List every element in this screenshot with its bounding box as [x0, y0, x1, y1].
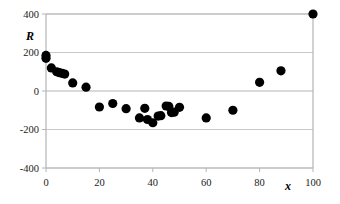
data-point	[68, 78, 77, 87]
data-point	[202, 113, 211, 122]
data-point	[95, 102, 104, 111]
chart-canvas: -400-2000200400 020406080100 R x	[0, 0, 340, 204]
x-tick-label: 80	[254, 177, 265, 188]
y-tick-label: -200	[20, 124, 39, 135]
data-point	[255, 78, 264, 87]
y-tick-label: 200	[23, 47, 39, 58]
data-point	[140, 104, 149, 113]
data-point	[41, 54, 50, 63]
x-tick-label: 0	[43, 177, 48, 188]
data-point	[81, 83, 90, 92]
y-axis-title: R	[25, 29, 34, 43]
scatter-chart: -400-2000200400 020406080100 R x	[0, 0, 340, 204]
x-tick-label: 20	[94, 177, 105, 188]
x-tick-label: 60	[201, 177, 212, 188]
y-tick-label: 400	[23, 9, 39, 20]
data-point	[308, 9, 317, 18]
x-tick-label: 100	[305, 177, 321, 188]
x-tick-label: 40	[148, 177, 159, 188]
data-point	[122, 104, 131, 113]
y-tick-label: 0	[34, 86, 39, 97]
data-point	[228, 106, 237, 115]
y-tick-label: -400	[20, 163, 39, 174]
data-point	[175, 103, 184, 112]
x-axis-title: x	[284, 179, 291, 193]
data-point	[108, 99, 117, 108]
data-point	[135, 113, 144, 122]
data-point	[276, 66, 285, 75]
data-point	[156, 111, 165, 120]
data-point	[60, 69, 69, 78]
